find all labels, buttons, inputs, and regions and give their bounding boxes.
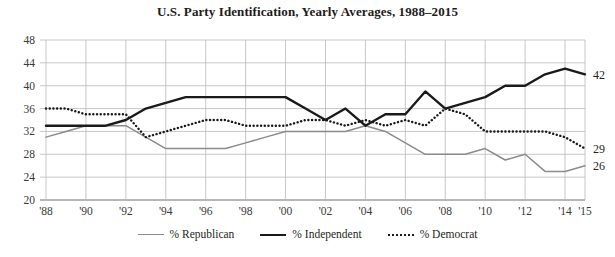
legend-label-independent: % Independent (292, 228, 361, 240)
chart-legend: % Republican % Independent % Democrat (0, 228, 615, 240)
y-axis-tick-label: 20 (24, 194, 36, 206)
legend-label-democrat: % Democrat (420, 228, 478, 240)
y-axis-tick-label: 36 (24, 103, 36, 115)
data-series-line (46, 69, 585, 126)
y-axis-tick-label: 40 (24, 80, 36, 92)
series-end-value-label: 42 (593, 68, 605, 82)
x-axis-tick-label: '02 (319, 205, 333, 217)
y-axis-tick-label: 48 (24, 34, 36, 46)
x-axis-tick-label: '90 (79, 205, 93, 217)
x-axis-tick-label: '88 (39, 205, 53, 217)
legend-label-republican: % Republican (170, 228, 235, 240)
y-axis-tick-label: 24 (24, 171, 36, 183)
x-axis-tick-label: '98 (239, 205, 253, 217)
x-axis-tick-label: '96 (199, 205, 213, 217)
series-end-value-label: 26 (593, 159, 605, 173)
y-axis-tick-label: 44 (24, 57, 36, 69)
x-axis-tick-label: '94 (159, 205, 173, 217)
x-axis-tick-label: '12 (518, 205, 532, 217)
legend-item-democrat[interactable]: % Democrat (388, 228, 478, 240)
legend-item-independent[interactable]: % Independent (260, 228, 361, 240)
legend-line-republican-icon (138, 229, 164, 239)
y-axis-ticks: 2024283236404448 (24, 34, 36, 206)
x-axis-tick-label: '00 (279, 205, 293, 217)
x-axis-tick-label: '04 (359, 205, 373, 217)
series-end-value-label: 29 (593, 142, 605, 156)
y-axis-tick-label: 32 (24, 125, 36, 137)
legend-line-democrat-icon (388, 229, 414, 239)
data-series-layer (46, 69, 585, 172)
x-axis-tick-label: '15 (578, 205, 592, 217)
x-axis-ticks: '88'90'92'94'96'98'00'02'04'06'08'10'12'… (39, 205, 592, 217)
x-axis-tick-label: '92 (119, 205, 133, 217)
legend-line-independent-icon (260, 229, 286, 239)
data-series-line (46, 126, 585, 172)
chart-plot-area: 2024283236404448 '88'90'92'94'96'98'00'0… (0, 0, 615, 257)
y-axis-tick-label: 28 (24, 148, 36, 160)
x-axis-tick-label: '14 (558, 205, 572, 217)
party-identification-chart: U.S. Party Identification, Yearly Averag… (0, 0, 615, 257)
x-axis-tick-label: '10 (478, 205, 492, 217)
x-axis-tick-label: '08 (438, 205, 452, 217)
end-value-labels: 264229 (593, 68, 605, 173)
legend-item-republican[interactable]: % Republican (138, 228, 235, 240)
x-axis-tick-label: '06 (399, 205, 413, 217)
